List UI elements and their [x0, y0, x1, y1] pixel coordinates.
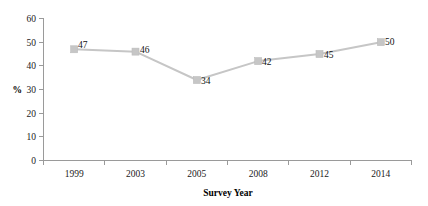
series-marker-2014 [377, 39, 384, 46]
data-label-2003: 46 [140, 45, 150, 55]
series-marker-2005 [193, 77, 200, 84]
data-label-2014: 50 [385, 37, 395, 47]
data-label-2005: 34 [201, 76, 211, 86]
x-tick-label-2014: 2014 [371, 169, 390, 179]
line-chart-figure: 60 50 40 30 20 10 0 % 1999 2003 2005 200… [0, 0, 428, 206]
y-tick-label-20: 20 [27, 109, 37, 119]
data-label-1999: 47 [78, 40, 88, 50]
data-label-2012: 45 [324, 50, 334, 60]
y-axis-title: % [13, 85, 23, 95]
y-tick-label-40: 40 [27, 61, 37, 71]
y-tick-label-0: 0 [31, 156, 36, 166]
y-tick-label-50: 50 [27, 38, 37, 48]
y-tick-label-60: 60 [27, 14, 37, 24]
x-tick-label-1999: 1999 [65, 169, 84, 179]
series-marker-1999 [71, 46, 78, 53]
series-marker-2008 [255, 58, 262, 65]
series-marker-2003 [132, 48, 139, 55]
x-tick-label-2012: 2012 [310, 169, 329, 179]
x-tick-label-2003: 2003 [126, 169, 145, 179]
x-tick-label-2005: 2005 [187, 169, 206, 179]
y-tick-label-30: 30 [27, 85, 37, 95]
y-tick-label-10: 10 [27, 132, 37, 142]
x-tick-label-2008: 2008 [249, 169, 268, 179]
chart-canvas: 60 50 40 30 20 10 0 % 1999 2003 2005 200… [0, 0, 428, 206]
x-axis-title: Survey Year [203, 188, 253, 198]
series-marker-2012 [316, 51, 323, 58]
data-label-2008: 42 [262, 57, 272, 67]
